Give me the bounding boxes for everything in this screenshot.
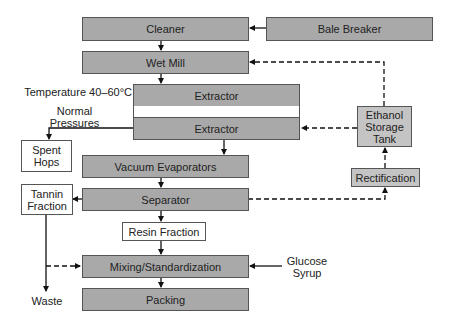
node-rectification: Rectification: [351, 168, 420, 187]
node-cleaner: Cleaner: [82, 17, 249, 41]
node-bale-breaker: Bale Breaker: [266, 17, 433, 41]
node-separator-label: Separator: [141, 194, 189, 206]
node-vacuum-evaporators-label: Vacuum Evaporators: [115, 161, 217, 173]
node-wet-mill: Wet Mill: [82, 51, 249, 74]
node-extractor-1: Extractor: [133, 84, 300, 107]
waste-label: Waste: [28, 295, 66, 307]
node-separator: Separator: [82, 188, 249, 211]
node-extractor-1-label: Extractor: [194, 90, 238, 102]
node-packing: Packing: [82, 288, 249, 311]
node-tannin-fraction-label: Tannin Fraction: [25, 188, 69, 212]
node-rectification-label: Rectification: [356, 172, 416, 184]
edge-extractor-spenthops: [49, 128, 133, 139]
temperature-label: Temperature 40–60°C: [2, 86, 132, 98]
node-ethanol-storage-tank: Ethanol Storage Tank: [357, 106, 412, 147]
node-vacuum-evaporators: Vacuum Evaporators: [82, 155, 249, 178]
node-mixing-standardization-label: Mixing/Standardization: [110, 261, 221, 273]
node-resin-fraction: Resin Fraction: [122, 222, 206, 241]
node-ethanol-storage-tank-label: Ethanol Storage Tank: [361, 109, 409, 145]
node-extractor-2: Extractor: [133, 117, 300, 140]
node-packing-label: Packing: [146, 294, 185, 306]
node-extractor-2-label: Extractor: [194, 123, 238, 135]
node-spent-hops: Spent Hops: [21, 140, 72, 172]
glucose-syrup-label: Glucose Syrup: [284, 255, 330, 279]
node-tannin-fraction: Tannin Fraction: [21, 184, 73, 215]
node-bale-breaker-label: Bale Breaker: [318, 23, 382, 35]
node-mixing-standardization: Mixing/Standardization: [82, 255, 249, 278]
edge-separator-rectification: [248, 188, 385, 199]
node-spent-hops-label: Spent Hops: [29, 144, 65, 168]
node-cleaner-label: Cleaner: [146, 23, 185, 35]
pressure-label: Normal Pressures: [32, 105, 117, 129]
node-resin-fraction-label: Resin Fraction: [129, 226, 200, 238]
node-wet-mill-label: Wet Mill: [146, 57, 185, 69]
